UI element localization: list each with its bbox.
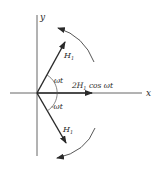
y-axis-label: y [39,12,46,22]
upper-h1-label: H1 [63,51,74,61]
upper-h1-vector [37,42,65,93]
resultant-label: 2H1 cos ωt [71,81,114,91]
x-axis-label: x [146,88,151,98]
lower-h1-vector [37,93,66,143]
phasor-diagram: y x H1 ωt -ωt H1 2H1 cos ωt [0,0,166,172]
lower-h1-label: H1 [62,125,73,135]
lower-angle-label: -ωt [51,102,64,111]
upper-angle-label: ωt [54,76,64,85]
